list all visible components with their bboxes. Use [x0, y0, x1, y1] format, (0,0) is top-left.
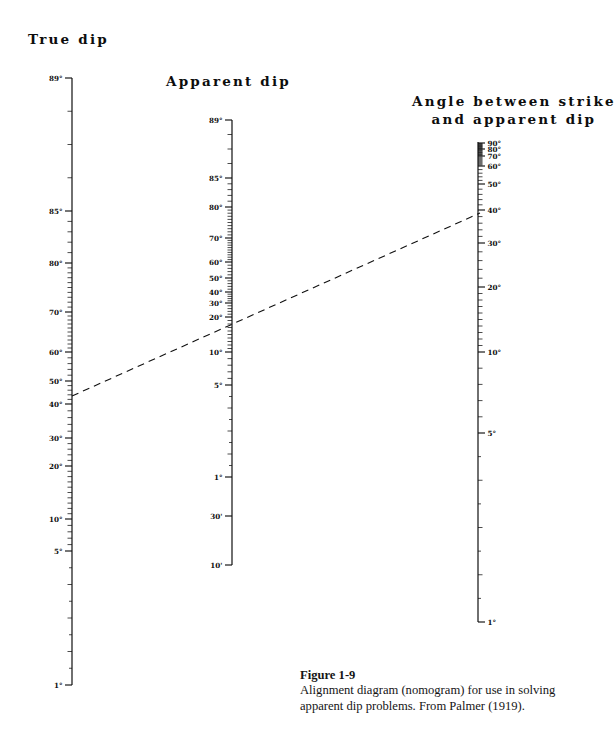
figure-caption-text: Alignment diagram (nomogram) for use in … — [300, 683, 600, 714]
axes-group: 89°85°80°70°60°50°40°30°20°10°5°1°89°85°… — [49, 74, 501, 690]
apparent-dip-scale-tick-label: 30° — [209, 299, 223, 308]
true-dip-scale-tick-label: 30° — [49, 434, 63, 443]
apparent-dip-scale-tick-label: 80° — [209, 203, 223, 212]
strike-angle-scale-tick-label: 5° — [488, 429, 497, 438]
apparent-dip-scale-tick-label: 50° — [209, 274, 223, 283]
apparent-dip-scale-tick-label: 89° — [209, 116, 223, 125]
apparent-dip-scale-tick-label: 85° — [209, 174, 223, 183]
strike-angle-scale: 90°80°70°60°50°40°30°20°10°5°1° — [478, 139, 501, 627]
strike-angle-scale-tick-label: 20° — [488, 283, 502, 292]
strike-angle-scale-tick-label: 30° — [488, 239, 502, 248]
true-dip-scale-tick-label: 80° — [49, 259, 63, 268]
true-dip-scale-tick-label: 50° — [49, 377, 63, 386]
figure-caption-heading: Figure 1-9 — [300, 668, 600, 683]
apparent-dip-scale-tick-label: 60° — [209, 258, 223, 267]
strike-angle-scale-tick-label: 50° — [488, 180, 502, 189]
true-dip-scale-tick-label: 70° — [49, 308, 63, 317]
true-dip-scale: 89°85°80°70°60°50°40°30°20°10°5°1° — [49, 74, 72, 690]
true-dip-scale-tick-label: 10° — [49, 515, 63, 524]
strike-angle-scale-tick-label: 70° — [488, 152, 502, 161]
apparent-dip-scale-tick-label: 70° — [209, 234, 223, 243]
true-dip-scale-tick-label: 89° — [49, 74, 63, 83]
true-dip-scale-tick-label: 1° — [54, 681, 63, 690]
alignment-dashed-line — [72, 213, 480, 396]
apparent-dip-scale: 89°85°80°70°60°50°40°30°20°10°5°1°30'10' — [209, 116, 232, 570]
true-dip-scale-tick-label: 85° — [49, 207, 63, 216]
strike-angle-scale-tick-label: 10° — [488, 348, 502, 357]
true-dip-scale-tick-label: 60° — [49, 348, 63, 357]
true-dip-scale-tick-label: 5° — [54, 547, 63, 556]
construction-line-group — [72, 213, 480, 396]
strike-angle-scale-tick-label: 1° — [488, 618, 497, 627]
apparent-dip-scale-tick-label: 5° — [214, 381, 223, 390]
true-dip-scale-tick-label: 20° — [49, 462, 63, 471]
apparent-dip-scale-tick-label: 1° — [214, 473, 223, 482]
apparent-dip-scale-tick-label: 10° — [209, 348, 223, 357]
true-dip-scale-tick-label: 40° — [49, 400, 63, 409]
figure-caption: Figure 1-9 Alignment diagram (nomogram) … — [300, 668, 600, 714]
apparent-dip-scale-tick-label: 20° — [209, 313, 223, 322]
apparent-dip-scale-tick-label: 40° — [209, 288, 223, 297]
apparent-dip-scale-tick-label: 30' — [210, 512, 222, 521]
strike-angle-scale-tick-label: 60° — [488, 162, 502, 171]
apparent-dip-scale-tick-label: 10' — [210, 561, 222, 570]
strike-angle-scale-tick-label: 40° — [488, 206, 502, 215]
